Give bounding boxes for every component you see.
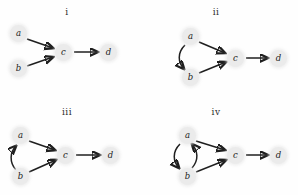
edge-b-to-c [196,160,226,172]
edge-b-to-c [29,160,56,172]
panel-iii: iii a b c d [0,98,149,195]
node-label-a: a [12,127,29,144]
node-label-a: a [10,25,27,42]
edge-a-to-c [196,141,225,150]
node-label-d: d [100,44,117,61]
edge-layer-ii [149,0,298,97]
node-label-b: b [12,168,29,185]
node-label-c: c [55,44,72,61]
node-label-c: c [227,50,244,67]
node-label-d: d [270,147,287,164]
edge-layer-i [0,0,149,97]
panel-ii: ii a b c d [149,0,298,97]
panel-iv: iv a b c d [149,98,298,195]
edge-a-to-c [29,141,55,150]
node-label-b: b [179,168,196,185]
edge-b-to-a-curved [11,146,16,170]
node-label-a: a [179,127,196,144]
edge-b-to-a-curved [192,144,197,168]
edge-a-to-b-curved [174,144,180,168]
edge-a-to-b-curved [179,45,185,69]
node-label-b: b [10,60,27,77]
panel-i: i a b c d [0,0,149,97]
figure-canvas: i a b c d ii [0,0,298,195]
edge-a-to-c [27,39,53,48]
node-label-c: c [227,147,244,164]
node-label-d: d [270,50,287,67]
edge-b-to-c [27,57,53,66]
node-label-c: c [57,147,74,164]
node-label-b: b [182,69,199,86]
edge-b-to-c [199,62,226,73]
node-label-d: d [102,147,119,164]
node-label-a: a [182,28,199,45]
edge-a-to-c [199,42,225,53]
